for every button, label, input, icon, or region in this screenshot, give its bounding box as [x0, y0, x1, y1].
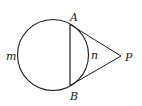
label-arc-m: m: [6, 50, 16, 63]
diagram-canvas: A B P m n: [0, 0, 142, 106]
label-b: B: [69, 90, 78, 103]
label-a: A: [69, 11, 78, 24]
circle: [18, 20, 89, 91]
label-arc-n: n: [91, 49, 98, 62]
geometry-diagram: A B P m n: [0, 0, 142, 106]
label-p: P: [124, 51, 133, 64]
